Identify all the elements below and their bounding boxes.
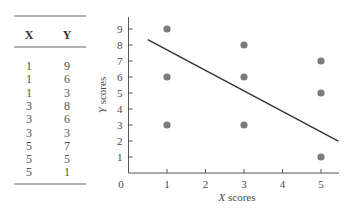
data-point [317, 153, 324, 160]
x-axis-label: X scores [218, 191, 256, 203]
y-tick-label: 2 [117, 135, 123, 147]
y-tick-label: 9 [117, 23, 123, 35]
y-tick-label: 8 [117, 39, 123, 51]
data-point [240, 73, 247, 80]
x-tick-label: 5 [318, 178, 324, 190]
x-tick-label: 4 [280, 178, 286, 190]
chart-axes [129, 17, 340, 173]
y-tick-label: 5 [117, 87, 123, 99]
origin-label: 0 [118, 178, 124, 190]
x-tick-label: 1 [164, 178, 170, 190]
data-point [240, 41, 247, 48]
y-axis-label-rest: scores [96, 77, 108, 107]
y-axis-ticks: 123456789 [117, 23, 133, 163]
y-axis-label: Y scores [96, 77, 108, 113]
scatter-chart: 123456789 12345 0 X scores Y scores [0, 0, 360, 208]
x-axis-label-rest: scores [225, 191, 255, 203]
x-tick-label: 3 [241, 178, 247, 190]
data-point [163, 73, 170, 80]
data-point [163, 25, 170, 32]
data-points [163, 25, 324, 160]
x-axis-ticks: 12345 [164, 169, 324, 190]
y-tick-label: 4 [117, 103, 123, 115]
data-point [317, 57, 324, 64]
x-tick-label: 2 [203, 178, 209, 190]
y-tick-label: 7 [117, 55, 123, 67]
data-point [163, 121, 170, 128]
data-point [317, 89, 324, 96]
y-tick-label: 1 [117, 151, 123, 163]
y-tick-label: 3 [117, 119, 123, 131]
data-point [240, 121, 247, 128]
y-tick-label: 6 [117, 71, 123, 83]
